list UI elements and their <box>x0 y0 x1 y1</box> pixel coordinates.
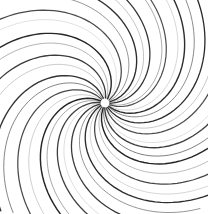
image-canvas <box>0 0 208 214</box>
spiral-vortex-graphic <box>0 0 208 214</box>
